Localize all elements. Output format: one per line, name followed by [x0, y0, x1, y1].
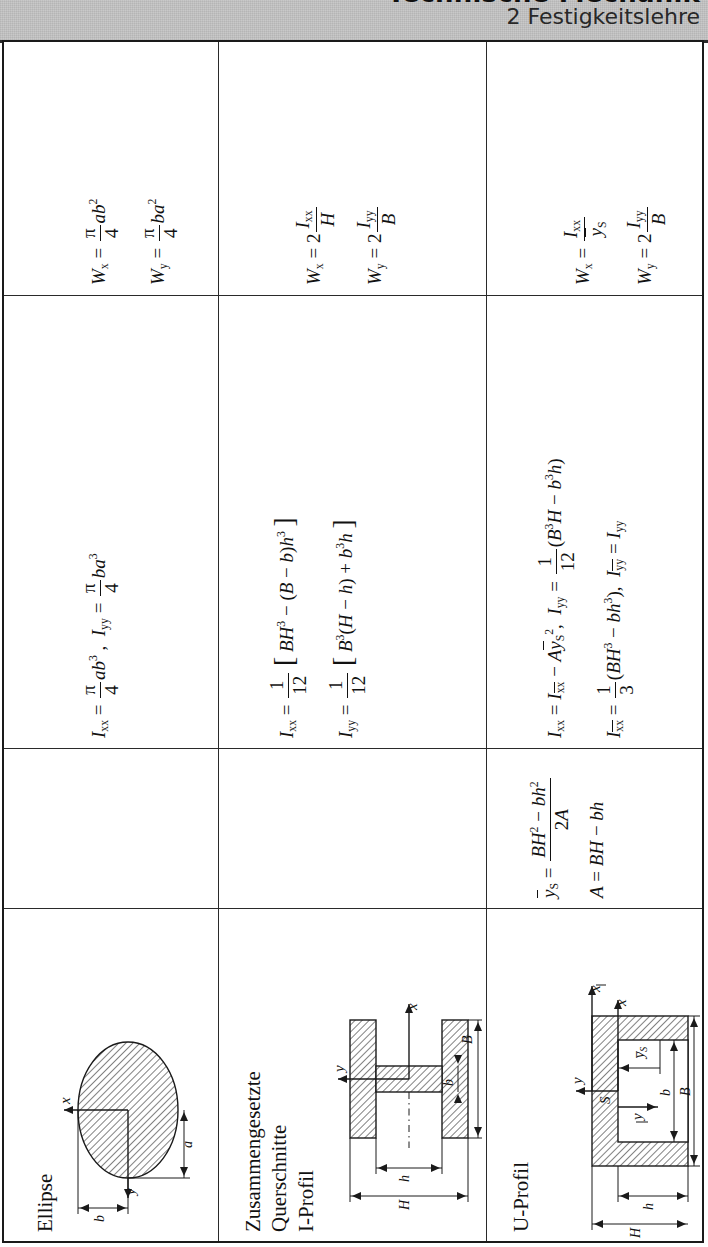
svg-text:x: x — [613, 999, 629, 1007]
eq-ixx-u-profil: Ixx = Ixx − AyS2, Iyy = 112(B3H − b3h) — [534, 458, 579, 738]
eq-wy-u-profil: Wy = 2IyyB — [623, 205, 670, 285]
formula-table: Wx = π4ab2 Wy = π4ba2 Wx = 2IxxH Wy = 2I… — [2, 40, 704, 1243]
svg-text:h: h — [641, 1203, 656, 1210]
row-divider-2 — [4, 748, 702, 749]
eq-ixxbar-u-profil: Ixx = 13(BH3 − bh3), Iyy = Iyy — [593, 458, 638, 738]
svg-text:H: H — [397, 1199, 412, 1211]
svg-text:x: x — [587, 985, 603, 993]
cell-inertia-ellipse: Ixx = π4ab3 , Iyy = π4ba3 — [78, 553, 123, 738]
svg-text:y: y — [331, 1065, 347, 1074]
cell-section-modulus-ellipse: Wx = π4ab2 Wy = π4ba2 — [78, 199, 181, 285]
svg-text:h: h — [397, 1175, 412, 1182]
cell-section-modulus-u-profil: Wx = IxxyS Wy = 2IyyB — [560, 205, 670, 285]
profile-name-u-profil: U-Profil — [508, 1162, 534, 1232]
column-divider-2 — [486, 42, 487, 1241]
chapter-title: 2 Festigkeitslehre — [506, 4, 700, 29]
eq-ixx-iyy-ellipse: Ixx = π4ab3 , Iyy = π4ba3 — [78, 553, 123, 738]
eq-iyy-i-profil: Iyy = 112 [ B3(H − h) + b3h ] — [325, 517, 370, 738]
svg-text:a: a — [180, 1141, 195, 1148]
cell-section-modulus-i-profil: Wx = 2IxxH Wy = 2IyyB — [292, 205, 399, 285]
eq-area-u-profil: A = BH − bh — [587, 776, 607, 898]
profile-name-i-profil-line2: Querschnitte — [266, 1071, 292, 1232]
svg-text:b: b — [441, 1079, 456, 1086]
figure-i-profil: x y B b — [322, 982, 482, 1247]
profile-name-ellipse: Ellipse — [32, 1174, 58, 1232]
profile-name-i-profil-line3: I-Profil — [293, 1071, 319, 1232]
page-header-band: Technische Mechanik 2 Festigkeitslehre — [0, 0, 708, 43]
row-divider-1 — [4, 295, 702, 296]
profile-name-i-profil: Zusammengesetzte Querschnitte I-Profil — [240, 1071, 319, 1232]
figure-ellipse: x y a b — [56, 992, 206, 1242]
cell-inertia-u-profil: Ixx = Ixx − AyS2, Iyy = 112(B3H − b3h) I… — [534, 458, 637, 738]
svg-text:y: y — [629, 1113, 645, 1122]
cell-centroid-u-profil: yS = BH2 − bh22A A = BH − bh — [528, 776, 607, 898]
svg-text:S: S — [597, 1096, 613, 1104]
svg-text:x: x — [57, 1097, 73, 1105]
profile-name-i-profil-line1: Zusammengesetzte — [240, 1071, 266, 1232]
eq-wx-ellipse: Wx = π4ab2 — [78, 199, 123, 285]
svg-text:B: B — [678, 1087, 693, 1096]
svg-text:b: b — [92, 1215, 107, 1222]
cell-inertia-i-profil: Ixx = 112 [ BH3 − (B − b)h3 ] Iyy = 112 … — [266, 517, 369, 738]
row-divider-3 — [4, 908, 702, 909]
svg-text:y: y — [569, 1077, 585, 1086]
figure-u-profil: x x y y S y̅S — [570, 982, 708, 1247]
eq-wy-ellipse: Wy = π4ba2 — [137, 199, 182, 285]
reference-page: Technische Mechanik 2 Festigkeitslehre W… — [0, 0, 708, 1247]
svg-text:b: b — [658, 1089, 673, 1096]
eq-ysbar-u-profil: yS = BH2 − bh22A — [528, 776, 573, 898]
eq-wx-u-profil: Wx = IxxyS — [560, 205, 609, 285]
svg-text:x: x — [404, 1003, 420, 1011]
eq-wx-i-profil: Wx = 2IxxH — [292, 205, 339, 285]
svg-text:H: H — [628, 1227, 643, 1239]
eq-ixx-i-profil: Ixx = 112 [ BH3 − (B − b)h3 ] — [266, 517, 311, 738]
eq-wy-i-profil: Wy = 2IyyB — [353, 205, 400, 285]
svg-text:B: B — [460, 1035, 475, 1044]
column-divider-1 — [218, 42, 219, 1241]
svg-text:y: y — [122, 1188, 138, 1197]
